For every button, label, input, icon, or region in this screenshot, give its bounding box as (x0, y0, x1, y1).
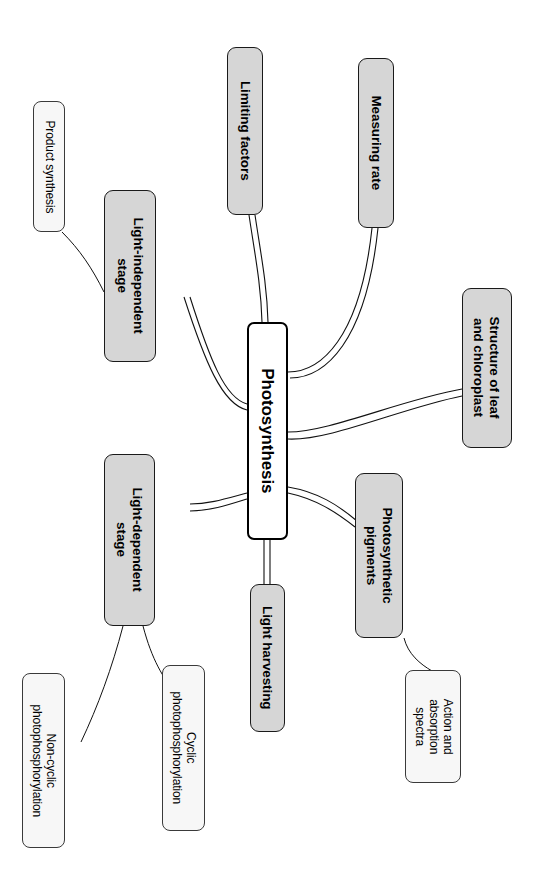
connector-photosynthesis-photosynthetic-pigments (288, 487, 357, 527)
connector-photosynthesis-measuring-rate (288, 228, 378, 378)
branch-label-light-dependent: Light-dependent stage (114, 488, 145, 592)
connector-light-dependent-non-cyclic (81, 626, 123, 742)
connector-photosynthesis-light-dependent (190, 493, 247, 511)
leaf-node-product-synthesis[interactable]: Product synthesis (33, 101, 65, 232)
leaf-label-action-absorption: Action and absorption spectra (412, 699, 453, 755)
branch-label-light-harvesting: Light harvesting (260, 606, 276, 709)
branch-label-photosynthetic-pigments: Photosynthetic pigments (363, 507, 394, 603)
branch-node-photosynthetic-pigments[interactable]: Photosynthetic pigments (355, 473, 403, 638)
branch-label-measuring-rate: Measuring rate (368, 96, 384, 191)
leaf-label-cyclic: Cyclic photophosphorylation (170, 692, 198, 805)
connector-photosynthesis-structure-leaf (288, 389, 462, 439)
branch-node-structure-leaf[interactable]: Structure of leaf and chloroplast (462, 288, 512, 448)
central-node-label: Photosynthesis (258, 368, 278, 493)
connector-light-independent-product-synthesis (62, 232, 104, 292)
leaf-node-cyclic[interactable]: Cyclic photophosphorylation (162, 665, 205, 831)
connector-photosynthetic-pigments-action-absorption (404, 638, 432, 671)
branch-label-structure-leaf: Structure of leaf and chloroplast (471, 317, 502, 419)
leaf-node-non-cyclic[interactable]: Non-cyclic photophosphorylation (22, 673, 65, 848)
leaf-label-product-synthesis: Product synthesis (42, 120, 56, 213)
leaf-label-non-cyclic: Non-cyclic photophosphorylation (30, 704, 58, 817)
mindmap-canvas: Photosynthesis Limiting factors Measurin… (0, 0, 533, 886)
branch-node-limiting-factors[interactable]: Limiting factors (227, 47, 263, 215)
connector-photosynthesis-limiting-factors (249, 215, 268, 322)
central-node-photosynthesis[interactable]: Photosynthesis (247, 322, 288, 540)
branch-label-light-independent: Light-independent stage (114, 218, 145, 334)
branch-node-light-dependent[interactable]: Light-dependent stage (104, 454, 155, 626)
connector-photosynthesis-light-independent (184, 297, 247, 410)
connector-photosynthesis-light-harvesting (264, 540, 270, 584)
leaf-node-action-absorption[interactable]: Action and absorption spectra (405, 670, 461, 783)
branch-node-measuring-rate[interactable]: Measuring rate (358, 58, 394, 228)
branch-node-light-harvesting[interactable]: Light harvesting (250, 584, 285, 732)
branch-label-limiting-factors: Limiting factors (237, 81, 253, 181)
branch-node-light-independent[interactable]: Light-independent stage (104, 190, 156, 362)
